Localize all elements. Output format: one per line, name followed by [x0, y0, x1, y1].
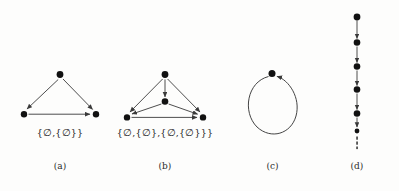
node-n2: [354, 39, 361, 46]
figure-root: {∅,{∅}} (a) {∅,{∅: [0, 0, 399, 191]
edge-top-right: [63, 79, 93, 109]
node-left: [124, 114, 130, 120]
edge-top-left: [27, 80, 58, 110]
edge-self-loop: [248, 76, 297, 134]
set-label-a: {∅,{∅}}: [0, 127, 120, 138]
continuation-dots: [356, 137, 358, 150]
node-left: [21, 111, 27, 117]
panel-b: {∅,{∅},{∅,{∅}}} (b): [105, 0, 225, 191]
panel-d: (d): [315, 0, 399, 191]
node-center: [162, 98, 169, 105]
node-n6: [355, 129, 360, 134]
edge-top-left: [130, 79, 163, 112]
node-n5: [354, 110, 361, 117]
node-n3: [354, 63, 361, 70]
node-top: [162, 71, 169, 78]
caption-b: (b): [105, 161, 225, 171]
node-top: [57, 71, 64, 78]
node-n4: [354, 86, 361, 93]
caption-a: (a): [0, 161, 120, 171]
node-n1: [354, 14, 361, 21]
panel-c: (c): [225, 0, 320, 191]
node-right: [93, 111, 99, 117]
edge-top-right: [168, 79, 200, 112]
panel-a: {∅,{∅}} (a): [0, 0, 120, 191]
caption-d: (d): [315, 161, 399, 171]
caption-c: (c): [225, 161, 320, 171]
set-label-b: {∅,{∅},{∅,{∅}}}: [105, 127, 225, 138]
node-right: [200, 114, 206, 120]
node-v: [269, 70, 276, 77]
